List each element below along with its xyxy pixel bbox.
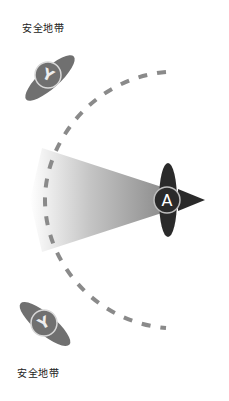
defender-bottom: Y xyxy=(14,296,76,352)
attacker-letter: A xyxy=(162,191,173,210)
attacker: A xyxy=(154,163,205,237)
tactical-diagram: Y Y A xyxy=(0,0,229,401)
defender-top: Y xyxy=(20,49,81,107)
direction-arrow-icon xyxy=(178,189,205,211)
